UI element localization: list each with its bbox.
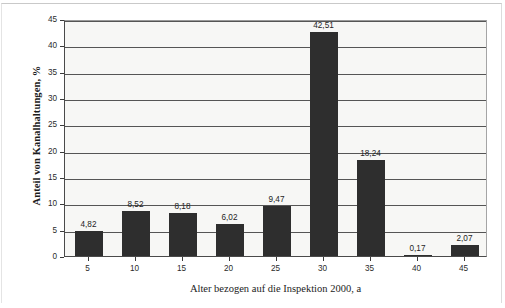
bar[interactable] bbox=[357, 160, 385, 256]
bar[interactable] bbox=[75, 231, 103, 256]
x-tick-label: 30 bbox=[318, 264, 327, 273]
x-tick: 5 bbox=[64, 257, 111, 279]
bar-value-label: 9,47 bbox=[269, 195, 285, 204]
bar-value-label: 0,17 bbox=[410, 244, 426, 253]
x-axis-ticks: 51015202530354045 bbox=[64, 257, 487, 279]
x-tick: 20 bbox=[205, 257, 252, 279]
bar-slot: 8,52 bbox=[112, 21, 159, 256]
bar-series: 4,828,528,186,029,4742,5118,240,172,07 bbox=[65, 21, 486, 256]
bar[interactable] bbox=[310, 32, 338, 256]
bar-slot: 4,82 bbox=[65, 21, 112, 256]
x-axis-title: Alter bezogen auf die Inspektion 2000, a bbox=[64, 283, 487, 294]
bar[interactable] bbox=[263, 206, 291, 256]
bar-slot: 2,07 bbox=[441, 21, 488, 256]
y-tick-label: 10 bbox=[48, 198, 57, 209]
bar-slot: 6,02 bbox=[206, 21, 253, 256]
bar[interactable] bbox=[122, 211, 150, 256]
x-tick-mark bbox=[182, 257, 183, 261]
x-tick: 15 bbox=[158, 257, 205, 279]
y-tick-label: 45 bbox=[48, 14, 57, 25]
bar[interactable] bbox=[216, 224, 244, 256]
bar-value-label: 2,07 bbox=[457, 234, 473, 243]
y-tick-label: 0 bbox=[52, 251, 57, 262]
x-tick: 25 bbox=[252, 257, 299, 279]
x-tick: 35 bbox=[346, 257, 393, 279]
bar[interactable] bbox=[451, 245, 479, 256]
bar-value-label: 6,02 bbox=[222, 213, 238, 222]
y-tick-label: 20 bbox=[48, 146, 57, 157]
x-tick: 30 bbox=[299, 257, 346, 279]
plot-area: 4,828,528,186,029,4742,5118,240,172,07 bbox=[64, 20, 487, 257]
x-tick-label: 20 bbox=[224, 264, 233, 273]
y-tick-label: 15 bbox=[48, 172, 57, 183]
x-tick-label: 45 bbox=[459, 264, 468, 273]
bar[interactable] bbox=[169, 213, 197, 256]
bar-value-label: 8,18 bbox=[175, 202, 191, 211]
bar-value-label: 18,24 bbox=[360, 149, 381, 158]
x-tick: 10 bbox=[111, 257, 158, 279]
bar-slot: 42,51 bbox=[300, 21, 347, 256]
x-tick-mark bbox=[464, 257, 465, 261]
x-tick-mark bbox=[135, 257, 136, 261]
x-tick-mark bbox=[229, 257, 230, 261]
chart-figure: Anteil von Kanalhaltungen, % 05101520253… bbox=[0, 0, 505, 308]
y-tick-label: 30 bbox=[48, 93, 57, 104]
x-tick-mark bbox=[417, 257, 418, 261]
x-tick-mark bbox=[276, 257, 277, 261]
y-tick-label: 5 bbox=[52, 225, 57, 236]
x-tick-label: 25 bbox=[271, 264, 280, 273]
bar-slot: 8,18 bbox=[159, 21, 206, 256]
bar[interactable] bbox=[404, 255, 432, 256]
x-tick-label: 10 bbox=[130, 264, 139, 273]
x-tick-label: 15 bbox=[177, 264, 186, 273]
x-tick-mark bbox=[323, 257, 324, 261]
bar-slot: 9,47 bbox=[253, 21, 300, 256]
y-axis-ticks: 051015202530354045 bbox=[0, 20, 64, 257]
bar-slot: 18,24 bbox=[347, 21, 394, 256]
x-tick: 45 bbox=[440, 257, 487, 279]
x-tick-mark bbox=[88, 257, 89, 261]
y-tick-label: 25 bbox=[48, 119, 57, 130]
y-tick-label: 35 bbox=[48, 67, 57, 78]
x-tick-label: 5 bbox=[85, 264, 90, 273]
y-tick-label: 40 bbox=[48, 40, 57, 51]
x-tick-label: 35 bbox=[365, 264, 374, 273]
bar-value-label: 42,51 bbox=[313, 21, 334, 30]
bar-value-label: 8,52 bbox=[128, 200, 144, 209]
x-tick-mark bbox=[370, 257, 371, 261]
x-tick-label: 40 bbox=[412, 264, 421, 273]
x-tick: 40 bbox=[393, 257, 440, 279]
bar-value-label: 4,82 bbox=[81, 220, 97, 229]
bar-slot: 0,17 bbox=[394, 21, 441, 256]
